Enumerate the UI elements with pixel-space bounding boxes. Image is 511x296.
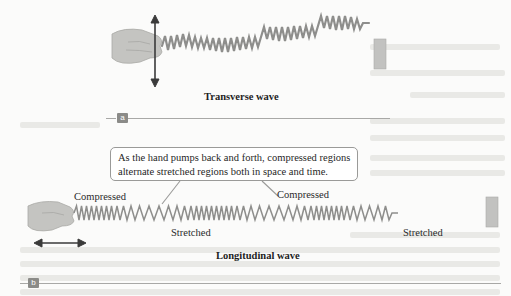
wave-figure: Transverse wave a As the hand pumps back… xyxy=(0,0,511,296)
caption-transverse-wave: Transverse wave xyxy=(204,91,279,102)
callout-pointers xyxy=(162,181,278,204)
spring-coil-transverse xyxy=(162,16,369,52)
panel-b-rule xyxy=(39,283,501,284)
panel-a-rule-left xyxy=(106,118,116,119)
label-compressed-left: Compressed xyxy=(74,191,126,202)
callout-line-2: alternate stretched regions both in spac… xyxy=(118,165,350,179)
double-arrow-horizontal-icon xyxy=(34,239,86,247)
spring-coil-longitudinal xyxy=(74,206,398,220)
callout-box: As the hand pumps back and forth, compre… xyxy=(110,147,358,181)
wall-mount-a xyxy=(374,39,386,69)
label-compressed-right: Compressed xyxy=(277,189,329,200)
wall-mount-b xyxy=(486,197,498,227)
panel-b-rule-left xyxy=(20,283,28,284)
panel-a-rule xyxy=(128,118,390,119)
caption-longitudinal-wave: Longitudinal wave xyxy=(216,250,300,261)
panel-tag-b: b xyxy=(28,278,39,288)
callout-line-1: As the hand pumps back and forth, compre… xyxy=(118,151,350,165)
label-stretched-left: Stretched xyxy=(171,227,211,238)
hand-icon-b xyxy=(28,202,74,231)
label-stretched-right: Stretched xyxy=(403,227,443,238)
panel-tag-a: a xyxy=(117,113,128,123)
